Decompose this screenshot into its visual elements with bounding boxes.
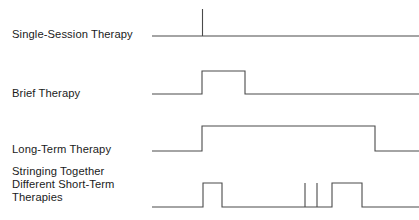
trace-brief-therapy <box>152 71 419 94</box>
waveform-traces <box>0 0 419 220</box>
trace-long-term-therapy <box>152 126 419 151</box>
therapy-timeline-figure: Single-Session Therapy Brief Therapy Lon… <box>0 0 419 220</box>
trace-single-session-therapy <box>152 9 419 36</box>
trace-stringing-together-therapies <box>152 183 419 207</box>
